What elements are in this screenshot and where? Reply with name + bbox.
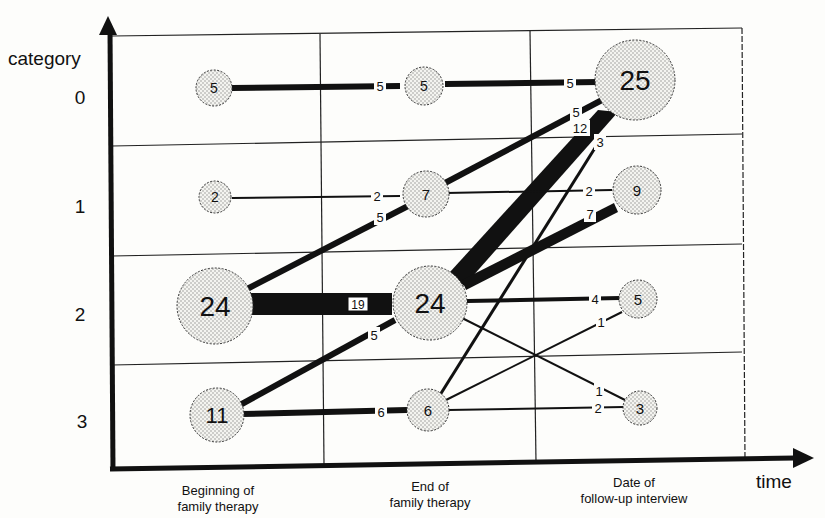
category-tick: 2 — [75, 304, 86, 325]
edge-label: 2 — [594, 401, 601, 416]
node-label: 2 — [211, 189, 219, 205]
edges — [232, 82, 625, 414]
time-label: follow-up interview — [581, 491, 689, 506]
node-label: 11 — [206, 403, 229, 428]
edge-label: 2 — [585, 184, 592, 199]
time-label: Date of — [613, 475, 655, 490]
x-axis-arrow-icon — [793, 448, 814, 468]
node-label: 5 — [420, 78, 428, 94]
node-label: 9 — [633, 182, 641, 199]
edge-label: 2 — [373, 189, 380, 204]
node-label: 5 — [210, 80, 218, 96]
axis-labels: category 0 1 2 3 time Beginning of famil… — [8, 48, 792, 514]
edge-label: 12 — [573, 121, 587, 136]
node-label: 5 — [634, 291, 642, 308]
transition-diagram: 5 2 5 19 5 6 5 5 12 3 2 7 4 1 1 2 5 2 24… — [0, 0, 825, 518]
edge-label: 5 — [376, 79, 383, 94]
edge-label: 5 — [572, 105, 579, 120]
edge-b2-e2 — [250, 293, 392, 315]
category-tick: 3 — [77, 411, 88, 432]
edge-label: 4 — [591, 292, 598, 307]
edge-label: 5 — [370, 328, 377, 343]
time-label: family therapy — [178, 499, 259, 514]
node-label: 24 — [199, 291, 230, 322]
node-label: 7 — [422, 186, 430, 203]
edge-label: 6 — [377, 405, 384, 420]
edge-label: 5 — [376, 210, 383, 225]
category-tick: 1 — [75, 196, 86, 217]
node-label: 6 — [424, 402, 432, 419]
node-label: 3 — [636, 400, 644, 417]
edge-label: 7 — [586, 207, 593, 222]
y-axis-arrow-icon — [99, 16, 117, 35]
edge-label: 19 — [351, 298, 365, 312]
time-label: End of — [411, 479, 449, 494]
node-label: 25 — [619, 65, 650, 96]
edge-label: 5 — [566, 76, 573, 91]
x-axis-title: time — [756, 471, 792, 492]
time-label: family therapy — [390, 495, 471, 510]
node-label: 24 — [414, 288, 445, 319]
time-label: Beginning of — [182, 483, 255, 498]
edge-label: 1 — [597, 315, 604, 330]
edge-label: 3 — [596, 135, 603, 150]
y-axis-title: category — [8, 48, 81, 69]
category-tick: 0 — [75, 87, 86, 108]
edge-label: 1 — [595, 384, 602, 399]
